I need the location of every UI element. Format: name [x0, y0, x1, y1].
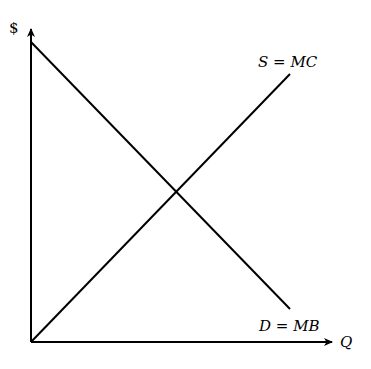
x-axis-label: Q	[340, 333, 352, 351]
supply-curve-label: S = MC	[258, 53, 318, 71]
y-axis-label: $	[9, 19, 19, 37]
demand-curve-label: D = MB	[258, 317, 320, 335]
demand-curve	[31, 42, 290, 309]
supply-curve	[31, 74, 290, 342]
supply-demand-diagram: $ Q S = MC D = MB	[0, 0, 371, 369]
